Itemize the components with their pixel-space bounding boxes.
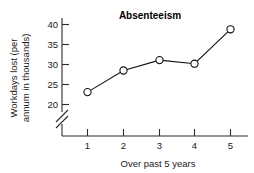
data-point-2 — [120, 67, 127, 74]
y-axis-title-line1: Workdays lost (per — [8, 38, 19, 117]
chart-container: Absenteeism 40 35 30 25 20 — [0, 0, 254, 173]
x-tick-label-2: 2 — [121, 140, 126, 151]
chart-background — [0, 0, 254, 173]
y-tick-label-30: 30 — [47, 59, 58, 70]
x-axis-title: Over past 5 years — [121, 158, 196, 169]
y-axis-title-line2: annum in thousands) — [20, 34, 31, 123]
x-tick-label-4: 4 — [192, 140, 197, 151]
y-tick-label-40: 40 — [47, 19, 58, 30]
data-point-4 — [191, 60, 198, 67]
data-point-5 — [227, 26, 234, 33]
x-tick-label-1: 1 — [85, 140, 90, 151]
y-tick-label-25: 25 — [47, 79, 58, 90]
y-tick-label-35: 35 — [47, 39, 58, 50]
data-point-1 — [84, 89, 91, 96]
chart-title: Absenteeism — [119, 10, 181, 21]
y-tick-label-20: 20 — [47, 99, 58, 110]
x-tick-label-5: 5 — [228, 140, 233, 151]
data-point-3 — [156, 57, 163, 64]
absenteeism-line-chart: Absenteeism 40 35 30 25 20 — [0, 0, 254, 173]
x-tick-label-3: 3 — [157, 140, 162, 151]
